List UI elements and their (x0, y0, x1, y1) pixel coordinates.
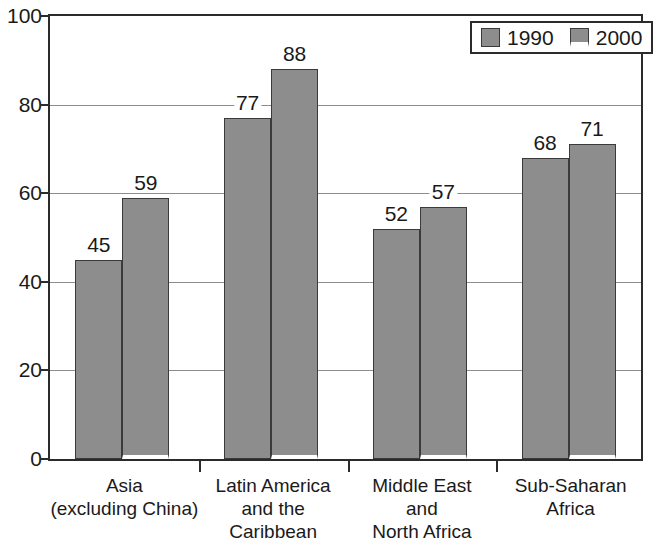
gridline (50, 105, 641, 106)
x-axis-category-label-line: and the (189, 497, 358, 520)
bar-1990-3: 52 (373, 229, 420, 459)
y-axis-tick-label: 20 (0, 359, 42, 380)
bar-value-label: 68 (531, 132, 558, 153)
x-axis-category-label-line: Asia (40, 474, 209, 497)
legend-item-1990: 1990 (481, 27, 554, 48)
bar-2000-3: 57 (420, 207, 467, 460)
legend-label-2000: 2000 (596, 27, 643, 48)
legend-swatch-2000-icon (570, 28, 589, 47)
y-axis-tick-label: 100 (0, 5, 42, 26)
bar-value-label: 57 (430, 181, 457, 202)
bar-1990-4: 68 (522, 158, 569, 459)
bar-value-label: 45 (85, 234, 112, 255)
legend-label-1990: 1990 (507, 27, 554, 48)
bar-2000-1: 59 (122, 198, 169, 459)
x-axis-category-label: Latin Americaand theCaribbean (189, 474, 358, 543)
bar-1990-1: 45 (75, 260, 122, 459)
bar-2000-4: 71 (569, 144, 616, 459)
bar-value-label: 52 (383, 203, 410, 224)
bar-value-label: 71 (578, 118, 605, 139)
plot-area: 4559778852576871 (48, 14, 643, 461)
x-axis-category-label: Asia(excluding China) (40, 474, 209, 520)
x-axis-category-label-line: Sub-Saharan (486, 474, 655, 497)
x-axis-tick-mark (496, 461, 498, 472)
chart-legend: 1990 2000 (470, 21, 653, 54)
x-axis-category-label-line: and (338, 497, 507, 520)
bar-2000-2: 88 (271, 69, 318, 459)
x-axis-category-label-line: Latin America (189, 474, 358, 497)
x-axis-tick-mark (348, 461, 350, 472)
bar-value-label: 59 (132, 172, 159, 193)
x-axis-category-label-line: (excluding China) (40, 497, 209, 520)
legend-item-2000: 2000 (570, 27, 643, 48)
y-axis-tick-label: 0 (0, 448, 42, 469)
bar-value-label: 88 (281, 43, 308, 64)
x-axis-category-label-line: Caribbean (189, 520, 358, 543)
y-axis-tick-label: 40 (0, 271, 42, 292)
x-axis-tick-mark (199, 461, 201, 472)
legend-swatch-1990-icon (481, 28, 500, 47)
x-axis-category-label-line: Middle East (338, 474, 507, 497)
bar-1990-2: 77 (224, 118, 271, 459)
x-axis-category-label-line: Africa (486, 497, 655, 520)
x-axis-category-label: Sub-SaharanAfrica (486, 474, 655, 520)
y-axis-tick-label: 80 (0, 94, 42, 115)
x-axis-category-label-line: North Africa (338, 520, 507, 543)
bar-value-label: 77 (234, 92, 261, 113)
y-axis-tick-label: 60 (0, 182, 42, 203)
x-axis-category-label: Middle EastandNorth Africa (338, 474, 507, 543)
